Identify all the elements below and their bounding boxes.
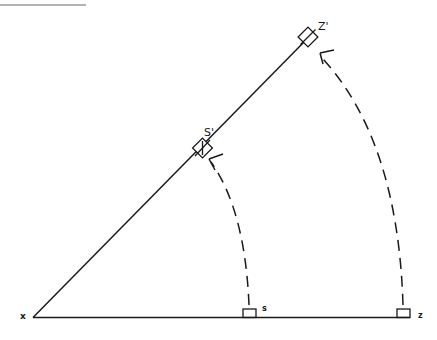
arrowhead-s-prime-icon — [209, 154, 223, 170]
arrowhead-z-prime-icon — [320, 50, 334, 64]
rotation-diagram: x s z S' Z' — [0, 0, 437, 340]
diagonal-line — [33, 42, 304, 318]
label-s: s — [262, 304, 267, 313]
arc-s-to-s-prime — [211, 162, 249, 305]
label-s-prime: S' — [204, 126, 214, 139]
label-z: z — [418, 311, 423, 320]
arc-z-to-z-prime — [322, 58, 403, 305]
label-z-prime: Z' — [318, 20, 329, 33]
z-right-angle-box — [397, 309, 410, 318]
s-right-angle-box — [243, 309, 256, 318]
label-origin-x: x — [20, 311, 26, 321]
